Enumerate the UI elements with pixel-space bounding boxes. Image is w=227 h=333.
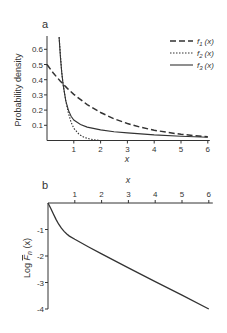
panel-b-x-tick-label: 2 <box>99 190 104 199</box>
panel-a-x-tick-label: 5 <box>179 145 184 154</box>
panel-b-x-tick-label: 3 <box>126 190 131 199</box>
panel-a-density-plot: a 1234560.10.20.30.40.50.6 x Probability… <box>13 18 214 164</box>
panel-a-y-tick-label: 0.4 <box>32 76 44 85</box>
panel-b-x-tick-label: 6 <box>207 190 212 199</box>
panel-b-x-tick-label: 4 <box>153 190 158 199</box>
legend-label-f3: f3(x) <box>197 61 214 71</box>
panel-a-y-tick-label: 0.3 <box>32 91 44 100</box>
legend-label-f1: f1(x) <box>197 37 214 47</box>
panel-b-axes: 123456-1-2-3-4 <box>37 190 213 314</box>
panel-a-x-tick-label: 1 <box>72 145 77 154</box>
panel-a-x-tick-label: 2 <box>98 145 103 154</box>
panel-b-label: b <box>42 179 48 191</box>
panel-a-x-tick-label: 4 <box>152 145 157 154</box>
panel-b-x-axis-label: x <box>125 175 131 185</box>
panel-a-y-tick-label: 0.1 <box>32 121 44 130</box>
series-f2-line <box>59 37 101 140</box>
panel-b-y-axis-label: Log Fn (x) <box>22 238 33 278</box>
series-f1-line <box>47 65 208 137</box>
panel-a-y-tick-label: 0.5 <box>32 61 44 70</box>
panel-a-x-axis-label: x <box>124 154 130 164</box>
panel-a-series <box>47 37 208 140</box>
panel-b-x-tick-label: 1 <box>73 190 78 199</box>
panel-a-y-tick-label: 0.6 <box>32 45 44 54</box>
panel-a-x-tick-label: 3 <box>125 145 130 154</box>
panel-a-x-tick-label: 6 <box>206 145 211 154</box>
panel-b-y-tick-label: -4 <box>37 305 45 314</box>
panel-a-label: a <box>42 18 49 30</box>
legend-label-f2: f2(x) <box>197 49 214 59</box>
panel-b-x-tick-label: 5 <box>180 190 185 199</box>
panel-b-y-tick-label: -1 <box>37 226 45 235</box>
panel-b-y-tick-label: -2 <box>37 252 45 261</box>
panel-b-y-tick-label: -3 <box>37 279 45 288</box>
panel-a-y-tick-label: 0.2 <box>32 106 44 115</box>
figure: a 1234560.10.20.30.40.50.6 x Probability… <box>0 0 227 333</box>
panel-b-log-survival-plot: b x 123456-1-2-3-4 Log Fn (x) <box>22 175 213 314</box>
panel-b-series <box>48 203 209 309</box>
series-log-survival-line <box>48 203 209 309</box>
panel-a-legend: f1(x)f2(x)f3(x) <box>170 37 214 71</box>
panel-a-y-axis-label: Probability density <box>13 53 23 127</box>
series-f3-line <box>59 37 208 137</box>
